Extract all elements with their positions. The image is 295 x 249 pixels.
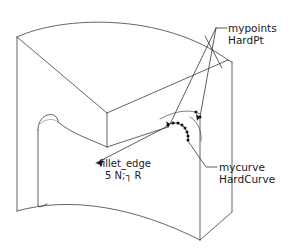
hard-point-marker — [199, 116, 202, 119]
label-mypoints: mypoints HardPt — [228, 22, 277, 46]
label-fillet-line2: 5 N;┐ R — [99, 170, 151, 182]
hard-point-marker — [187, 135, 190, 138]
hard-point-marker — [172, 122, 175, 125]
label-fillet-edge: fillet_edge 5 N;┐ R — [99, 158, 151, 181]
hard-point-marker — [167, 124, 170, 127]
label-mycurve-line1: mycurve — [219, 161, 265, 173]
hard-point-marker — [186, 131, 189, 134]
hard-point-marker — [181, 124, 184, 127]
label-fillet-line1: fillet_edge — [99, 158, 151, 169]
hard-point-marker — [187, 139, 190, 142]
cad-figure: mypoints HardPt mycurve HardCurve fillet… — [0, 0, 295, 249]
label-mycurve: mycurve HardCurve — [219, 161, 275, 185]
hard-point-marker — [177, 122, 180, 125]
label-mypoints-line2: HardPt — [228, 34, 277, 46]
hard-point-marker — [184, 127, 187, 130]
label-mycurve-line2: HardCurve — [219, 173, 275, 185]
label-mypoints-line1: mypoints — [228, 22, 277, 34]
hard-point-marker — [195, 111, 198, 114]
solid-body — [17, 22, 232, 240]
